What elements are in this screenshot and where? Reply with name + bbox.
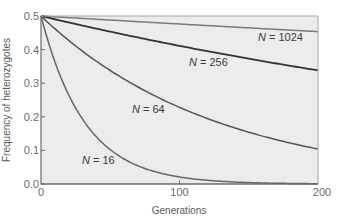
- x-tick-label: 200: [313, 186, 331, 198]
- y-tick-label: 0.2: [24, 111, 39, 123]
- x-tick-label: 0: [38, 186, 44, 198]
- series-label-n64: N = 64: [132, 103, 165, 115]
- y-axis-title: Frequency of heterozygotes: [1, 38, 12, 162]
- y-tick-label: 0.5: [24, 10, 39, 22]
- y-tick-label: 0.4: [24, 44, 39, 56]
- y-tick-label: 0.0: [24, 178, 39, 190]
- series-label-n1024: N = 1024: [258, 31, 303, 43]
- x-tick-label: 100: [170, 186, 188, 198]
- series-label-n16: N = 16: [82, 154, 115, 166]
- y-tick-label: 0.3: [24, 77, 39, 89]
- series-label-n256: N = 256: [189, 56, 228, 68]
- heterozygosity-line-chart: 0.00.10.20.30.40.5 0100200 N = 1024N = 2…: [0, 0, 338, 219]
- x-axis-title: Generations: [152, 205, 206, 216]
- y-tick-label: 0.1: [24, 144, 39, 156]
